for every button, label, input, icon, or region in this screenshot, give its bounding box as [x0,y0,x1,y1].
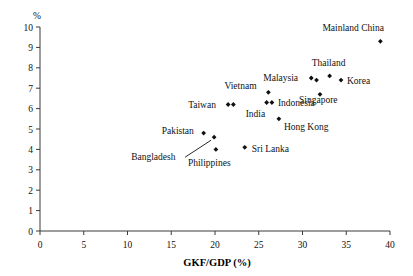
data-point-label: India [246,109,266,119]
x-tick-label: 35 [342,240,352,250]
y-tick-label: 10 [24,23,34,33]
chart-canvas: 0123456789100510152025303540 Mainland Ch… [0,0,413,276]
data-point-label: Bangladesh [131,152,176,162]
chart-background [0,0,413,276]
data-point-label: Taiwan [188,100,216,110]
y-axis-unit-label: % [33,11,41,21]
data-point-label: Sri Lanka [252,144,290,154]
x-tick-label: 5 [81,240,86,250]
data-point-label: Malaysia [263,73,299,83]
y-tick-label: 7 [28,84,33,94]
y-tick-label: 6 [28,104,33,114]
x-tick-label: 25 [254,240,264,250]
data-point-label: Thailand [312,58,346,68]
y-tick-label: 0 [28,227,33,237]
data-point-label: Pakistan [162,126,194,136]
data-point-label: Hong Kong [284,122,329,132]
data-point-label: Korea [347,76,371,86]
y-tick-label: 3 [28,165,33,175]
x-tick-label: 15 [167,240,177,250]
data-point-label: Philippines [188,158,231,168]
data-point-label: Vietnam [224,81,257,91]
y-tick-label: 8 [28,63,33,73]
x-tick-label: 30 [298,240,308,250]
y-tick-label: 9 [28,43,33,53]
x-tick-label: 10 [123,240,133,250]
x-tick-label: 40 [385,240,395,250]
x-tick-label: 0 [38,240,43,250]
y-tick-label: 5 [28,125,33,135]
y-tick-label: 4 [28,145,33,155]
x-axis-title: GKF/GDP (%) [183,257,251,269]
y-tick-label: 2 [28,186,33,196]
scatter-chart: 0123456789100510152025303540 Mainland Ch… [0,0,413,276]
data-point-label: Mainland China [322,23,384,33]
x-tick-label: 20 [210,240,220,250]
y-tick-label: 1 [28,206,33,216]
data-point-label: Indonesia [278,98,316,108]
